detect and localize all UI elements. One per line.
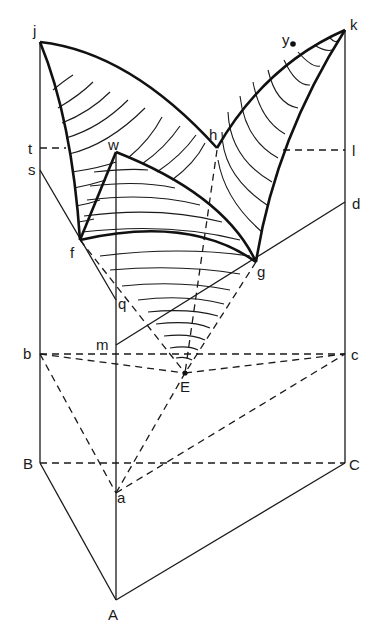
dash-b-a	[40, 354, 116, 493]
phase-diagram: j k t s w h l y d f g q m b c E B C a A	[0, 0, 379, 631]
boundary-f-g	[80, 231, 256, 262]
dash-b-E	[40, 354, 185, 373]
label-l: l	[352, 142, 355, 159]
edge-B-A	[40, 463, 116, 600]
label-C: C	[349, 456, 360, 473]
point-y	[290, 41, 296, 47]
isotherms-w-field	[82, 169, 250, 360]
label-t: t	[28, 140, 33, 157]
label-g: g	[257, 263, 265, 280]
label-q: q	[118, 295, 126, 312]
dash-h-E	[185, 150, 217, 373]
boundary-f-w	[80, 152, 116, 240]
label-h: h	[209, 126, 217, 143]
label-c: c	[351, 346, 359, 363]
label-k: k	[350, 16, 358, 33]
dash-f-E	[80, 240, 185, 373]
label-f: f	[70, 244, 75, 261]
dash-g-E	[185, 262, 256, 373]
label-b: b	[23, 345, 31, 362]
edge-A-C	[116, 463, 345, 600]
boundary-h-k	[217, 30, 345, 148]
dash-a-c	[116, 354, 345, 493]
label-B: B	[23, 455, 33, 472]
dash-E-c	[185, 354, 345, 373]
label-a: a	[117, 489, 126, 506]
eutectic-point-E	[182, 370, 187, 375]
label-j: j	[32, 22, 36, 39]
dash-a-E	[116, 373, 185, 493]
label-y: y	[282, 31, 290, 48]
label-w: w	[107, 136, 119, 153]
boundary-k-g	[256, 30, 345, 262]
boundary-j-f	[40, 42, 80, 240]
label-s: s	[28, 161, 36, 178]
label-A: A	[108, 606, 118, 623]
label-m: m	[96, 336, 109, 353]
label-d: d	[352, 195, 360, 212]
isotherms-k-field	[218, 38, 338, 232]
label-E: E	[180, 378, 190, 395]
